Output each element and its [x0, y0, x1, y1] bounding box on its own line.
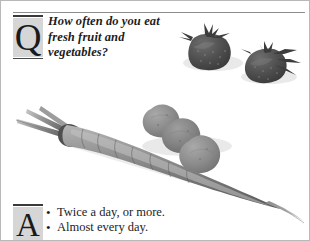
question-text: How often do you eat fresh fruit and veg… — [48, 14, 183, 61]
answer-option-label: Twice a day, or more. — [57, 205, 165, 219]
question-line-3: vegetables? — [48, 45, 183, 61]
answer-option[interactable]: • Twice a day, or more. — [46, 205, 246, 220]
question-initial: Q — [13, 18, 43, 57]
question-rule-below — [13, 58, 43, 59]
answer-initial: A — [13, 207, 43, 241]
answer-option-label: Almost every day. — [57, 220, 148, 234]
strawberry-right — [241, 41, 301, 84]
carrot-stalks — [16, 106, 69, 137]
answer-option[interactable]: • Almost every day. — [46, 220, 246, 235]
question-line-1: How often do you eat — [48, 14, 183, 30]
bullet-icon: • — [46, 220, 51, 235]
answer-options-list: • Twice a day, or more. • Almost every d… — [46, 205, 246, 235]
header-rule — [13, 12, 305, 13]
answer-rule-above — [13, 204, 43, 206]
strawberry-calyx — [179, 23, 230, 53]
question-line-2: fresh fruit and — [48, 30, 183, 46]
bullet-icon: • — [46, 205, 51, 220]
strawberry-calyx-right — [241, 41, 301, 75]
potato-stack — [142, 105, 232, 174]
strawberry-left — [179, 23, 243, 71]
qa-panel: Q How often do you eat fresh fruit and v… — [0, 0, 310, 241]
